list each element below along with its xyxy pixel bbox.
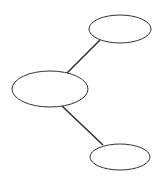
node-bottom (90, 144, 150, 170)
node-middle (12, 71, 88, 107)
node-bottom-ellipse (90, 144, 150, 170)
node-top-ellipse (89, 15, 151, 43)
node-top (89, 15, 151, 43)
edge-node-middle-to-node-bottom (62, 106, 103, 145)
diagram-canvas (0, 0, 163, 183)
nodes-group (12, 15, 151, 170)
node-middle-ellipse (12, 71, 88, 107)
edge-node-middle-to-node-top (67, 40, 100, 73)
